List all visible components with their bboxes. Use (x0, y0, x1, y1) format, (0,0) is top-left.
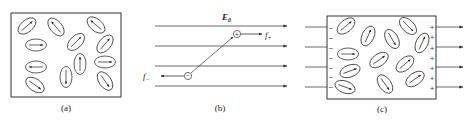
dipole-axis (191, 37, 233, 73)
positive-surface-charge: + (430, 54, 435, 63)
negative-surface-charge: − (329, 83, 334, 92)
dipole-molecule (94, 69, 116, 93)
panel-a-dipoles (15, 14, 116, 96)
dipole-molecule (393, 53, 417, 76)
panel-b-label: (b) (215, 103, 226, 113)
positive-surface-charge: + (430, 74, 435, 83)
negative-charge-symbol: − (186, 72, 190, 79)
panel-a-label: (a) (61, 103, 71, 113)
dipole-molecule (60, 67, 72, 88)
dipole-molecule (26, 61, 47, 73)
dipole-molecule (358, 24, 378, 48)
positive-surface-charge: + (430, 23, 435, 32)
dipole-molecule (367, 49, 391, 71)
negative-surface-charge: − (329, 24, 334, 33)
panel-b: E0 + f+ − f− (b) (143, 12, 287, 113)
dipole-molecule (396, 14, 419, 37)
negative-surface-charge: − (329, 54, 334, 63)
dipole-molecule (94, 32, 117, 56)
dipole-molecule (333, 78, 357, 96)
force-plus-label: f+ (265, 30, 272, 41)
panel-c: −−−−−−−+++++++ (c) (305, 14, 463, 114)
field-label-e0: E0 (221, 12, 231, 23)
dipole-molecule (338, 48, 359, 60)
negative-surface-charge: − (329, 34, 334, 43)
dipole-molecule (15, 15, 39, 38)
dipole-molecule (374, 72, 396, 96)
panel-c-label: (c) (377, 104, 387, 114)
dipole-molecule (334, 15, 358, 38)
dipole-molecule (45, 15, 68, 39)
dielectric-polarization-figure: (a) E0 + f+ − f− (b) −−−−−−−+++++++ (c) (0, 0, 475, 120)
panel-c-dipoles (333, 14, 432, 96)
positive-charge-symbol: + (235, 31, 239, 38)
negative-surface-charge: − (329, 73, 334, 82)
negative-surface-charge: − (329, 64, 334, 73)
positive-surface-charge: + (430, 84, 435, 93)
dipole-molecule (64, 30, 87, 53)
dipole-molecule (95, 56, 116, 68)
dipole-molecule (403, 68, 427, 90)
dipole-molecule (26, 39, 47, 51)
positive-surface-charge: + (430, 44, 435, 53)
positive-surface-charge: + (430, 64, 435, 73)
dipole-molecule (74, 54, 86, 75)
force-minus-label: f− (143, 71, 150, 82)
dipole-molecule (23, 74, 47, 96)
negative-surface-charge: − (329, 44, 334, 53)
dipole-molecule (84, 14, 108, 37)
dipole-molecule (338, 62, 362, 80)
panel-a: (a) (11, 13, 121, 113)
positive-surface-charge: + (430, 33, 435, 42)
dipole-molecule (382, 27, 403, 51)
